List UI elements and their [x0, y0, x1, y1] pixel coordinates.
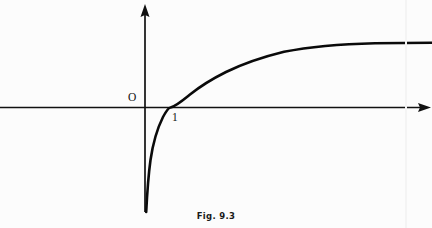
unit-tick-label: 1 — [172, 112, 178, 123]
figure-container: O 1 Fig. 9.3 — [0, 0, 432, 228]
figure-caption: Fig. 9.3 — [0, 211, 432, 221]
origin-label: O — [128, 92, 136, 103]
figure-drawing — [0, 0, 432, 228]
log-curve — [146, 43, 432, 212]
